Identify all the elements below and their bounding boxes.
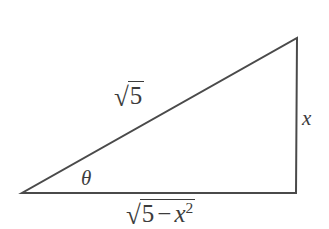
- hypotenuse-label: √5: [114, 82, 144, 110]
- angle-theta-label: θ: [81, 168, 91, 189]
- radicand-variable: x: [174, 200, 185, 227]
- opposite-side-label: x: [302, 108, 311, 129]
- radical-expression: √5: [114, 82, 144, 110]
- minus-operator: −: [154, 200, 174, 227]
- radicand-first-term: 5: [142, 200, 155, 227]
- radical-sign-icon: √: [114, 84, 129, 111]
- triangle-diagram: √5 x θ √5−x2: [0, 0, 329, 229]
- radicand-value: 5: [128, 81, 145, 108]
- triangle-outline: [22, 38, 297, 193]
- triangle-shape: [0, 0, 329, 229]
- radicand-expression: 5−x2: [140, 199, 195, 226]
- radical-sign-icon: √: [126, 202, 141, 229]
- adjacent-side-label: √5−x2: [126, 200, 195, 228]
- radical-expression: √5−x2: [126, 200, 195, 228]
- radicand-exponent: 2: [186, 199, 194, 216]
